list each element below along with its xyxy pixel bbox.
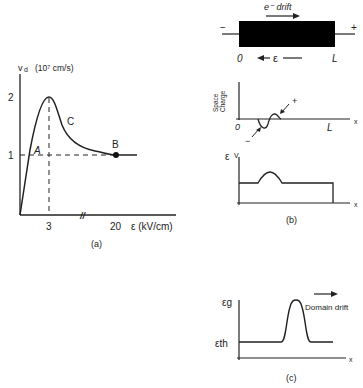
y-tick-1: 1 <box>8 150 14 161</box>
charge-dipole-curve <box>258 114 281 128</box>
space-charge-end: L <box>327 122 333 133</box>
space-charge-minus: − <box>245 136 250 146</box>
domain-x-label: x <box>349 356 353 363</box>
field-profile-x-label: x <box>354 201 358 208</box>
panel-c-domain-profile: εg εth x Domain drift (c) <box>215 291 353 383</box>
velocity-field-curve <box>20 97 137 215</box>
point-a-label: A <box>33 145 41 156</box>
field-profile-unit: V <box>234 152 239 159</box>
x-axis-label: ε (kV/cm) <box>131 221 173 232</box>
bar-end-label: L <box>332 53 338 64</box>
space-charge-origin: 0 <box>235 122 240 132</box>
domain-drift-label: Domain drift <box>305 303 349 312</box>
space-charge-label-2: Charge <box>219 90 227 112</box>
field-arrow-icon <box>257 55 264 61</box>
caption-a: (a) <box>91 239 102 249</box>
gunn-effect-diagram: v d (10⁷ cm/s) 2 1 A B C // 3 20 ε (kV/c… <box>0 0 363 388</box>
point-c-label: C <box>67 116 74 127</box>
point-b-label: B <box>112 139 119 150</box>
caption-c: (c) <box>286 373 297 383</box>
domain-drift-arrow-icon <box>331 291 338 297</box>
y-axis-label-symbol: v <box>18 63 23 73</box>
axis-break-mark: // <box>79 211 87 221</box>
field-profile-label: ε <box>225 151 230 162</box>
point-b-marker <box>113 152 119 158</box>
panel-b-device-and-profiles: e⁻ drift − + 0 L ε Space Charge + − 0 L … <box>212 2 358 225</box>
semiconductor-bar <box>239 21 335 47</box>
electron-drift-arrow-icon <box>293 13 300 19</box>
eg-label: εg <box>222 297 232 308</box>
x-tick-20: 20 <box>110 221 122 232</box>
y-tick-2: 2 <box>8 92 14 103</box>
field-label: ε <box>273 52 278 64</box>
panel-a-velocity-field-plot: v d (10⁷ cm/s) 2 1 A B C // 3 20 ε (kV/c… <box>8 63 176 249</box>
space-charge-plus: + <box>292 96 297 106</box>
positive-terminal: + <box>351 22 357 33</box>
y-axis-label-subscript: d <box>24 66 28 73</box>
field-profile-curve <box>239 172 333 203</box>
caption-b: (b) <box>286 215 297 225</box>
eth-label: εth <box>215 338 228 349</box>
space-charge-x-label: x <box>354 118 358 125</box>
electron-drift-label: e⁻ drift <box>264 2 292 12</box>
x-tick-3: 3 <box>46 221 52 232</box>
y-axis-label-unit: (10⁷ cm/s) <box>35 63 74 73</box>
negative-terminal: − <box>220 22 226 33</box>
bar-start-label: 0 <box>237 53 243 64</box>
